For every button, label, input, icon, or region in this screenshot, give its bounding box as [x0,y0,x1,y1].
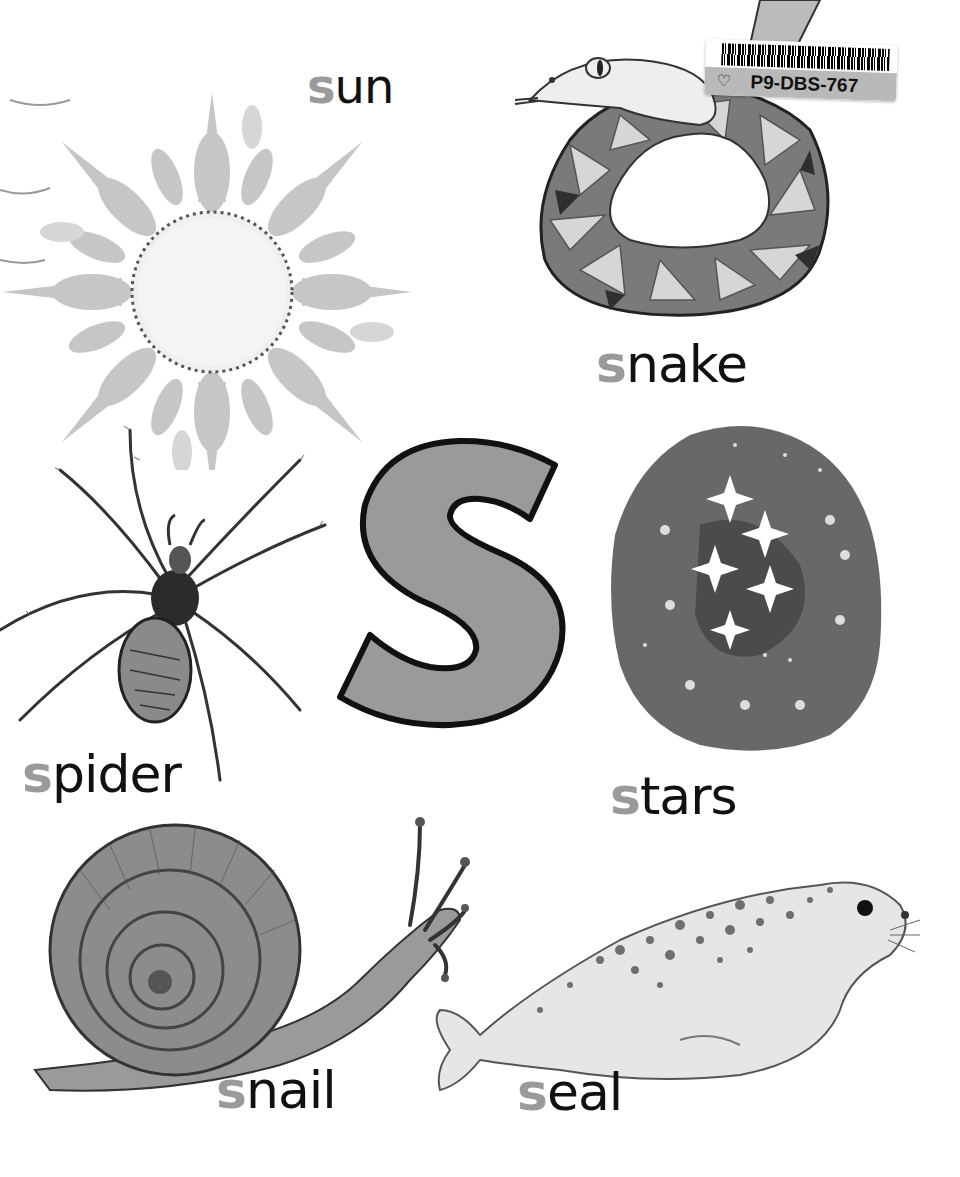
word-label-sun: sun [307,62,393,110]
word-label-stars: stars [610,770,737,822]
word-lead-letter: s [307,58,335,114]
word-lead-letter: s [216,1060,246,1120]
word-lead-letter: s [22,744,52,804]
spider-illustration [0,420,330,790]
word-lead-letter: s [517,1062,547,1122]
word-label-snail: snail [216,1064,336,1116]
word-rest: nail [246,1060,336,1120]
word-rest: un [335,58,394,114]
word-rest: eal [547,1062,622,1122]
word-label-snake: snake [596,338,747,390]
big-letter-s [330,435,580,730]
word-label-seal: seal [517,1066,622,1118]
tag-icon: ♡ [716,71,731,90]
word-rest: nake [626,334,747,394]
stars-illustration [600,415,890,760]
word-rest: tars [640,766,737,826]
barcode [721,43,890,71]
word-lead-letter: s [610,766,640,826]
word-rest: pider [52,744,181,804]
seal-illustration [420,860,920,1100]
library-barcode-sticker: ♡ P9-DBS-767 [704,39,898,102]
barcode-text: P9-DBS-767 [750,71,858,97]
word-lead-letter: s [596,334,626,394]
word-label-spider: spider [22,748,181,800]
